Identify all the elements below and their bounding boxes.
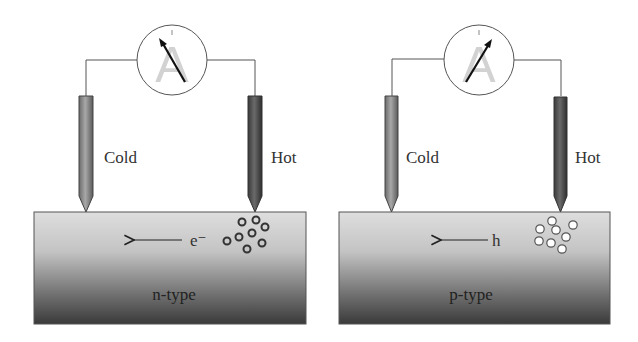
cold-probe	[79, 96, 93, 212]
hot-label: Hot	[271, 148, 297, 167]
hot-probe	[248, 96, 262, 212]
cold-probe	[385, 96, 398, 212]
carrier-label: h	[492, 231, 501, 250]
cold-label: Cold	[104, 148, 138, 167]
material-label: n-type	[152, 285, 195, 304]
wire-cold	[86, 60, 137, 96]
ammeter: A	[137, 25, 207, 95]
hot-probe	[554, 97, 567, 212]
semiconductor-block	[34, 212, 306, 324]
material-label: p-type	[449, 285, 492, 304]
ammeter-letter: A	[462, 37, 496, 93]
wire-cold	[392, 59, 444, 96]
hot-probe-diagram: A Cold Hot e⁻ n-type	[0, 0, 638, 342]
panel-n-type: A Cold Hot e⁻ n-type	[34, 25, 306, 324]
ammeter: A	[444, 25, 514, 95]
hot-label: Hot	[575, 148, 601, 167]
wire-hot	[207, 60, 255, 96]
panel-p-type: A Cold Hot h p-type	[339, 25, 610, 324]
carrier-label: e⁻	[190, 231, 207, 250]
wire-hot	[514, 60, 561, 96]
cold-label: Cold	[406, 148, 440, 167]
ammeter-letter: A	[155, 37, 189, 93]
semiconductor-block	[339, 212, 610, 324]
